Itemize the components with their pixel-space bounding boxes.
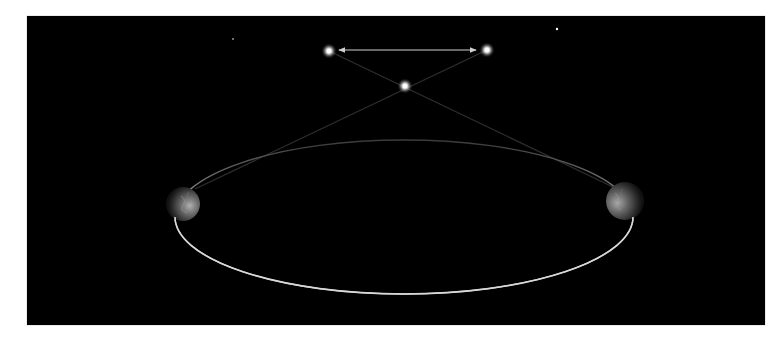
earths	[166, 182, 644, 294]
earth-right-icon	[606, 182, 644, 220]
earth-left-icon	[166, 187, 200, 221]
background-star-icon	[556, 28, 558, 30]
parallax-scene	[0, 0, 780, 341]
apparent-position-left-star-icon	[321, 43, 337, 59]
line-of-sight	[329, 51, 613, 187]
apparent-position-right-star-icon	[479, 42, 495, 58]
line-of-sight	[195, 50, 487, 189]
parallax-diagram	[0, 0, 780, 341]
earth-orbit-near-side	[175, 217, 633, 294]
sight-lines	[195, 50, 613, 189]
nearby-star-star-icon	[397, 78, 413, 94]
background-star-icon	[232, 38, 234, 40]
background-stars	[232, 28, 558, 40]
